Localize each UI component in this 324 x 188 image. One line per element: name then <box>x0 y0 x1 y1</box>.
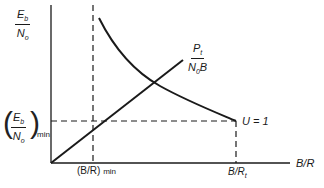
b-r-t-label: B/Rt <box>228 167 247 179</box>
pt-line-label: Pt N0B <box>188 42 207 76</box>
pt-line <box>51 60 183 163</box>
x-axis-label: B/R <box>296 158 314 169</box>
eb-no-curve <box>99 18 236 121</box>
b-r-min-label: (B/R) min <box>77 166 116 176</box>
diagram-canvas <box>0 0 324 188</box>
y-axis-label: Eb No <box>15 8 30 42</box>
eb-no-min-sub: min <box>37 131 50 139</box>
eb-no-min-label: Eb No <box>11 111 26 145</box>
u-equals-1-label: U = 1 <box>242 116 269 127</box>
